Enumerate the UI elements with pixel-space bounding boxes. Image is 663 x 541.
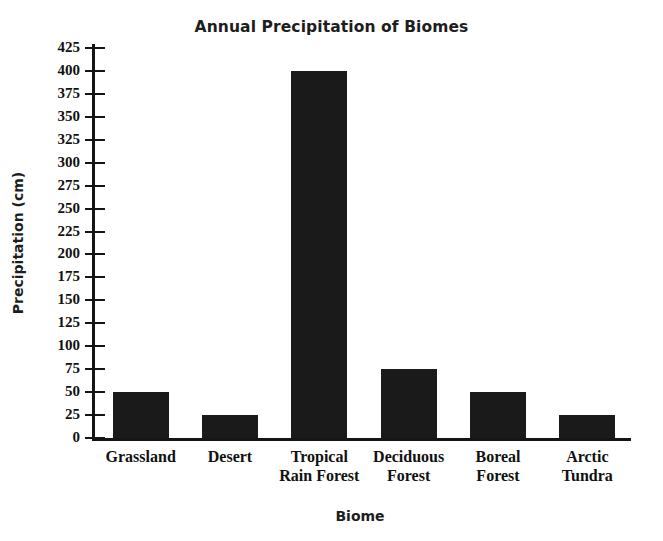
y-axis-tick — [85, 47, 105, 49]
y-axis-tick — [85, 253, 105, 255]
x-axis-tick-label-line: Deciduous — [364, 447, 453, 466]
y-axis-tick — [85, 414, 105, 416]
x-axis-tick-label-line: Rain Forest — [275, 466, 364, 485]
y-axis-tick-label: 300 — [36, 155, 80, 170]
y-axis-tick — [85, 185, 105, 187]
x-axis-tick-label-line: Arctic — [543, 447, 632, 466]
bar — [381, 369, 437, 438]
y-axis-tick — [85, 368, 105, 370]
y-axis-tick-label: 150 — [36, 292, 80, 307]
y-axis-tick — [85, 93, 105, 95]
y-axis-tick-label: 75 — [36, 361, 80, 376]
y-axis-tick — [85, 208, 105, 210]
x-axis-title: Biome — [92, 508, 628, 524]
bar — [202, 415, 258, 438]
y-axis-tick — [85, 391, 105, 393]
bar — [291, 71, 347, 438]
y-axis-tick — [85, 70, 105, 72]
y-axis-tick — [85, 231, 105, 233]
y-axis-tick-label: 325 — [36, 132, 80, 147]
y-axis-tick-label: 225 — [36, 224, 80, 239]
y-axis-tick — [85, 437, 105, 439]
chart-title: Annual Precipitation of Biomes — [0, 18, 663, 36]
y-axis-title: Precipitation (cm) — [10, 133, 26, 353]
y-axis-tick-label: 175 — [36, 269, 80, 284]
y-axis-tick — [85, 162, 105, 164]
y-axis-tick-label: 375 — [36, 86, 80, 101]
x-axis-tick-label: DeciduousForest — [364, 447, 453, 485]
bar — [470, 392, 526, 438]
y-axis-tick-label: 0 — [36, 430, 80, 445]
x-axis-line — [92, 438, 631, 441]
y-axis-tick — [85, 276, 105, 278]
y-axis-tick-label: 200 — [36, 246, 80, 261]
y-axis-tick-label: 400 — [36, 63, 80, 78]
x-axis-tick-label: TropicalRain Forest — [275, 447, 364, 485]
x-axis-tick-label: BorealForest — [453, 447, 542, 485]
x-axis-tick-label-line: Forest — [364, 466, 453, 485]
y-axis-tick-label: 125 — [36, 315, 80, 330]
x-axis-tick-label-line: Tundra — [543, 466, 632, 485]
bar — [559, 415, 615, 438]
y-axis-tick — [85, 116, 105, 118]
y-axis-tick — [85, 299, 105, 301]
x-axis-tick-label-line: Forest — [453, 466, 542, 485]
y-axis-tick — [85, 345, 105, 347]
x-axis-tick-label: Grassland — [96, 447, 185, 466]
x-axis-tick-label: Desert — [185, 447, 274, 466]
y-axis-tick — [85, 322, 105, 324]
y-axis-tick-label: 425 — [36, 40, 80, 55]
y-axis-tick — [85, 139, 105, 141]
y-axis-tick-label: 25 — [36, 407, 80, 422]
x-axis-tick-label: ArcticTundra — [543, 447, 632, 485]
bar — [113, 392, 169, 438]
x-axis-tick-label-line: Grassland — [96, 447, 185, 466]
x-axis-tick-label-line: Tropical — [275, 447, 364, 466]
x-axis-tick-label-line: Desert — [185, 447, 274, 466]
x-axis-tick-label-line: Boreal — [453, 447, 542, 466]
y-axis-tick-label: 250 — [36, 201, 80, 216]
y-axis-tick-label: 50 — [36, 384, 80, 399]
bar-chart-figure: Annual Precipitation of Biomes Precipita… — [0, 0, 663, 541]
y-axis-tick-label: 100 — [36, 338, 80, 353]
y-axis-tick-label: 275 — [36, 178, 80, 193]
y-axis-tick-label: 350 — [36, 109, 80, 124]
y-axis-line — [92, 44, 95, 441]
